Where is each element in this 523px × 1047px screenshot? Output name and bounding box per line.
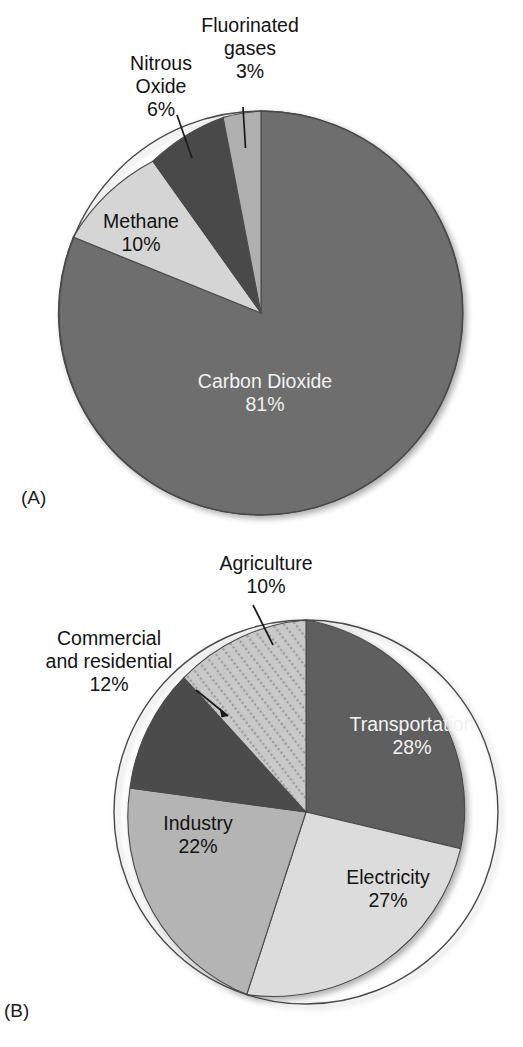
pie-b-label-transportation: Transportation 28% [326, 713, 498, 759]
pie-a-label-carbon-dioxide: Carbon Dioxide 81% [150, 370, 380, 416]
pie-b-label-agriculture: Agriculture 10% [182, 552, 350, 598]
pie-b-label-commercial-and-residential: Commercial and residential 12% [16, 627, 202, 696]
pie-a-label-nitrous-oxide: Nitrous Oxide 6% [107, 52, 215, 121]
panel-tag-a: (A) [21, 487, 46, 509]
pie-chart-a [58, 111, 463, 515]
pie-a-label-methane: Methane 10% [80, 210, 202, 256]
pie-b-label-electricity: Electricity 27% [318, 866, 458, 912]
pie-b-label-industry: Industry 22% [136, 812, 260, 858]
figure-container: Fluorinated gases 3% Nitrous Oxide 6% Me… [0, 0, 523, 1047]
panel-tag-b: (B) [4, 1000, 29, 1022]
